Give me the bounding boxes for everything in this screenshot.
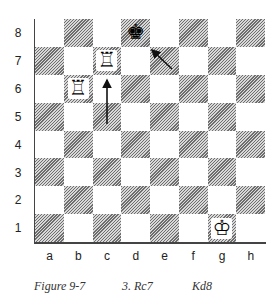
- square-g8[interactable]: [208, 19, 237, 47]
- square-d1[interactable]: [121, 214, 150, 242]
- square-b7[interactable]: [64, 47, 93, 75]
- square-g5[interactable]: [208, 103, 237, 131]
- square-e1[interactable]: [150, 214, 179, 242]
- square-c5[interactable]: [93, 103, 122, 131]
- square-d5[interactable]: [121, 103, 150, 131]
- rank-label-8: 8: [12, 26, 24, 40]
- file-label-f: f: [179, 249, 208, 263]
- rank-label-5: 5: [12, 110, 24, 124]
- square-d3[interactable]: [121, 158, 150, 186]
- square-g7[interactable]: [208, 47, 237, 75]
- file-label-a: a: [35, 249, 64, 263]
- square-f2[interactable]: [179, 186, 208, 214]
- square-a7[interactable]: [35, 47, 64, 75]
- square-h5[interactable]: [236, 103, 265, 131]
- square-g1[interactable]: ♔: [208, 214, 237, 242]
- square-h7[interactable]: [236, 47, 265, 75]
- rank-label-2: 2: [12, 193, 24, 207]
- square-c3[interactable]: [93, 158, 122, 186]
- rank-label-4: 4: [12, 138, 24, 152]
- black-move: Kd8: [192, 279, 212, 294]
- square-b4[interactable]: [64, 131, 93, 159]
- square-b3[interactable]: [64, 158, 93, 186]
- square-b6[interactable]: ♖: [64, 75, 93, 103]
- square-g4[interactable]: [208, 131, 237, 159]
- white-king-glyph: ♔: [211, 218, 232, 239]
- white-rook-icon[interactable]: ♖: [64, 75, 93, 103]
- square-a1[interactable]: [35, 214, 64, 242]
- square-c6[interactable]: [93, 75, 122, 103]
- file-label-h: h: [236, 249, 265, 263]
- square-g6[interactable]: [208, 75, 237, 103]
- square-h6[interactable]: [236, 75, 265, 103]
- square-f8[interactable]: [179, 19, 208, 47]
- square-f6[interactable]: [179, 75, 208, 103]
- square-f7[interactable]: [179, 47, 208, 75]
- rank-label-6: 6: [12, 82, 24, 96]
- square-d6[interactable]: [121, 75, 150, 103]
- square-f4[interactable]: [179, 131, 208, 159]
- rank-label-7: 7: [12, 54, 24, 68]
- file-label-c: c: [93, 249, 122, 263]
- square-a2[interactable]: [35, 186, 64, 214]
- square-d2[interactable]: [121, 186, 150, 214]
- file-label-b: b: [64, 249, 93, 263]
- square-b5[interactable]: [64, 103, 93, 131]
- figure-caption: Figure 9-7: [34, 279, 85, 294]
- square-h8[interactable]: [236, 19, 265, 47]
- square-f3[interactable]: [179, 158, 208, 186]
- square-b2[interactable]: [64, 186, 93, 214]
- square-b1[interactable]: [64, 214, 93, 242]
- white-rook-icon[interactable]: ♖: [93, 47, 122, 75]
- square-g3[interactable]: [208, 158, 237, 186]
- square-a4[interactable]: [35, 131, 64, 159]
- square-a8[interactable]: [35, 19, 64, 47]
- rank-label-1: 1: [12, 221, 24, 235]
- black-king-icon[interactable]: ♚: [121, 19, 150, 47]
- square-h2[interactable]: [236, 186, 265, 214]
- square-e3[interactable]: [150, 158, 179, 186]
- square-f5[interactable]: [179, 103, 208, 131]
- chess-board: ♚♖♖♔: [35, 19, 265, 242]
- square-b8[interactable]: [64, 19, 93, 47]
- square-c7[interactable]: ♖: [93, 47, 122, 75]
- square-d7[interactable]: [121, 47, 150, 75]
- square-c4[interactable]: [93, 131, 122, 159]
- square-d8[interactable]: ♚: [121, 19, 150, 47]
- square-a3[interactable]: [35, 158, 64, 186]
- square-c8[interactable]: [93, 19, 122, 47]
- white-rook-glyph: ♖: [96, 50, 117, 71]
- square-e6[interactable]: [150, 75, 179, 103]
- board-bottom-border: [34, 242, 266, 244]
- black-king-glyph: ♚: [126, 22, 145, 43]
- square-e7[interactable]: [150, 47, 179, 75]
- file-label-d: d: [121, 249, 150, 263]
- square-f1[interactable]: [179, 214, 208, 242]
- rank-label-3: 3: [12, 166, 24, 180]
- square-c1[interactable]: [93, 214, 122, 242]
- square-c2[interactable]: [93, 186, 122, 214]
- white-rook-glyph: ♖: [68, 78, 89, 99]
- square-e5[interactable]: [150, 103, 179, 131]
- square-d4[interactable]: [121, 131, 150, 159]
- file-label-g: g: [208, 249, 237, 263]
- white-king-icon[interactable]: ♔: [208, 214, 237, 242]
- square-h4[interactable]: [236, 131, 265, 159]
- square-h1[interactable]: [236, 214, 265, 242]
- file-label-e: e: [150, 249, 179, 263]
- square-a5[interactable]: [35, 103, 64, 131]
- square-g2[interactable]: [208, 186, 237, 214]
- square-e8[interactable]: [150, 19, 179, 47]
- square-e4[interactable]: [150, 131, 179, 159]
- square-e2[interactable]: [150, 186, 179, 214]
- square-h3[interactable]: [236, 158, 265, 186]
- white-move: 3. Rc7: [122, 279, 153, 294]
- square-a6[interactable]: [35, 75, 64, 103]
